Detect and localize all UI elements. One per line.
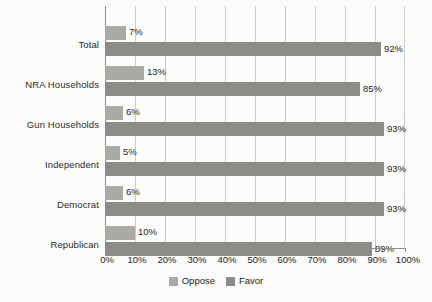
category-label-republican: Republican — [0, 239, 99, 250]
value-favor-total: 92% — [384, 44, 403, 54]
legend-swatch-favor-icon — [226, 277, 235, 286]
value-favor-nra-households: 85% — [363, 84, 382, 94]
legend-swatch-oppose-icon — [169, 277, 178, 286]
bar-favor-gun-households — [105, 122, 384, 136]
xtick-mark-30 — [195, 248, 196, 252]
category-label-gun-households: Gun Households — [0, 119, 99, 130]
value-oppose-gun-households: 6% — [126, 107, 140, 117]
xtick-mark-0 — [105, 248, 106, 252]
xtick-mark-90 — [375, 248, 376, 252]
xtick-label-30: 30% — [187, 254, 206, 265]
chart-legend: Oppose Favor — [0, 276, 432, 286]
value-oppose-democrat: 6% — [126, 187, 140, 197]
xtick-label-60: 60% — [277, 254, 296, 265]
xtick-mark-20 — [165, 248, 166, 252]
xtick-mark-10 — [135, 248, 136, 252]
bar-favor-democrat — [105, 202, 384, 216]
value-oppose-total: 7% — [129, 27, 143, 37]
value-favor-independent: 93% — [387, 164, 406, 174]
bar-oppose-democrat — [105, 186, 123, 200]
category-label-total: Total — [0, 39, 99, 50]
xtick-mark-70 — [315, 248, 316, 252]
xtick-label-100: 100% — [396, 254, 420, 265]
bar-oppose-gun-households — [105, 106, 123, 120]
plot-area — [105, 6, 405, 248]
bar-favor-independent — [105, 162, 384, 176]
xtick-label-20: 20% — [157, 254, 176, 265]
xtick-label-50: 50% — [247, 254, 266, 265]
xtick-mark-100 — [405, 248, 406, 252]
xtick-label-40: 40% — [217, 254, 236, 265]
bar-favor-total — [105, 42, 381, 56]
xtick-label-90: 90% — [367, 254, 386, 265]
value-oppose-independent: 5% — [123, 147, 137, 157]
xtick-label-0: 0% — [100, 254, 114, 265]
value-favor-democrat: 93% — [387, 204, 406, 214]
legend-item-oppose[interactable]: Oppose — [169, 276, 215, 286]
legend-label-favor: Favor — [239, 276, 263, 286]
bar-oppose-total — [105, 26, 126, 40]
bar-oppose-independent — [105, 146, 120, 160]
xtick-mark-80 — [345, 248, 346, 252]
value-oppose-republican: 10% — [138, 227, 157, 237]
value-oppose-nra-households: 13% — [147, 67, 166, 77]
category-axis: Total NRA Households Gun Households Inde… — [0, 6, 99, 248]
xtick-label-80: 80% — [337, 254, 356, 265]
category-label-independent: Independent — [0, 159, 99, 170]
xtick-mark-40 — [225, 248, 226, 252]
bar-oppose-republican — [105, 226, 135, 240]
xtick-mark-60 — [285, 248, 286, 252]
grouped-bar-chart: Total NRA Households Gun Households Inde… — [0, 0, 432, 302]
value-favor-gun-households: 93% — [387, 124, 406, 134]
bar-oppose-nra-households — [105, 66, 144, 80]
category-label-democrat: Democrat — [0, 199, 99, 210]
legend-item-favor[interactable]: Favor — [226, 276, 263, 286]
xtick-label-10: 10% — [127, 254, 146, 265]
bar-favor-nra-households — [105, 82, 360, 96]
legend-label-oppose: Oppose — [182, 276, 215, 286]
value-favor-republican: 89% — [375, 244, 394, 254]
category-label-nra-households: NRA Households — [0, 79, 99, 90]
xtick-mark-50 — [255, 248, 256, 252]
xtick-label-70: 70% — [307, 254, 326, 265]
